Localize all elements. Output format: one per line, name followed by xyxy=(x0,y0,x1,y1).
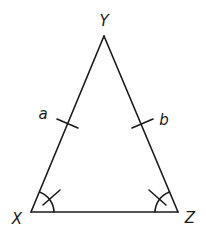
vertex-label-z: Z xyxy=(185,211,195,226)
triangle-figure xyxy=(0,0,206,232)
side-label-a: a xyxy=(38,107,47,122)
vertex-label-x: X xyxy=(12,212,22,227)
triangle-diagram: Y X Z a b xyxy=(0,0,206,232)
side-xy-tick-mark xyxy=(57,119,78,128)
vertex-label-y: Y xyxy=(99,14,108,29)
side-label-b: b xyxy=(159,113,169,128)
